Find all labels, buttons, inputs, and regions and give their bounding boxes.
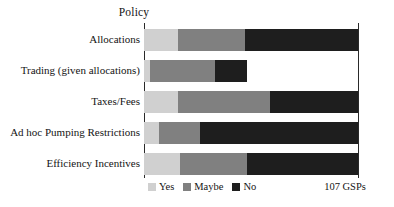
bar-track	[144, 29, 358, 51]
legend-item-no: No	[232, 181, 256, 192]
bar-row	[144, 60, 358, 82]
bar-segment-yes	[144, 29, 178, 51]
bar-row	[144, 29, 358, 51]
legend-label-yes: Yes	[159, 181, 174, 192]
total-count-annotation: 107 GSPs	[300, 181, 390, 192]
bar-segment-maybe	[178, 91, 270, 113]
legend-swatch-yes	[148, 183, 156, 191]
chart-title: Policy	[0, 6, 268, 18]
legend-item-maybe: Maybe	[183, 181, 223, 192]
bar-segment-yes	[144, 91, 178, 113]
bar-track	[144, 153, 358, 175]
bar-track	[144, 91, 358, 113]
bar-segment-yes	[144, 122, 159, 144]
bar-segment-maybe	[150, 60, 214, 82]
bar-segment-no	[247, 153, 358, 175]
legend-label-no: No	[243, 181, 256, 192]
bar-row	[144, 122, 358, 144]
bar-segment-maybe	[178, 29, 244, 51]
chart-legend: Yes Maybe No	[148, 181, 256, 192]
bar-track	[144, 122, 358, 144]
category-label-ad-hoc-pumping-restrictions: Ad hoc Pumping Restrictions	[0, 126, 140, 138]
category-label-allocations: Allocations	[0, 33, 140, 45]
bar-segment-no	[215, 60, 247, 82]
stacked-bar-chart: Policy Allocations Trading (given alloca…	[0, 0, 394, 207]
bar-segment-maybe	[159, 122, 200, 144]
bar-track	[144, 60, 358, 82]
plot-right-border	[358, 23, 359, 178]
bar-segment-no	[270, 91, 358, 113]
category-label-taxes-fees: Taxes/Fees	[0, 95, 140, 107]
bar-segment-no	[245, 29, 358, 51]
bar-segment-yes	[144, 153, 180, 175]
bar-segment-maybe	[180, 153, 246, 175]
legend-swatch-no	[232, 183, 240, 191]
bar-segment-no	[200, 122, 358, 144]
bar-row	[144, 91, 358, 113]
plot-area	[144, 24, 358, 177]
bar-row	[144, 153, 358, 175]
legend-swatch-maybe	[183, 183, 191, 191]
legend-item-yes: Yes	[148, 181, 174, 192]
category-label-efficiency-incentives: Efficiency Incentives	[0, 157, 140, 169]
category-label-trading: Trading (given allocations)	[0, 64, 140, 76]
legend-label-maybe: Maybe	[194, 181, 223, 192]
